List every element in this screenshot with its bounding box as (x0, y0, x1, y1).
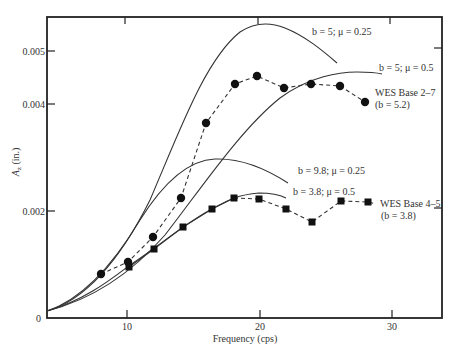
wes-base-45-markers (126, 195, 372, 271)
x-tick-label-10: 10 (122, 321, 132, 332)
annotation-b38-mu05: b = 3.8; μ = 0.5 (293, 186, 355, 197)
annotation-wes-base-27: WES Base 2–7 (375, 87, 436, 98)
annotation-b98-mu025: b = 9.8; μ = 0.25 (298, 165, 365, 176)
x-axis-ticks-bottom (127, 310, 392, 318)
y-tick-label-0005: 0.005 (23, 46, 46, 57)
annotation-b5-mu05: b = 5; μ = 0.5 (379, 62, 433, 73)
y-axis-title-unit: (in.) (10, 148, 22, 167)
annotation-wes-base-45-b: (b = 3.8) (381, 210, 416, 222)
annotation-wes-base-45: WES Base 4–5 (380, 198, 441, 209)
chart: 0 0.002 0.004 0.005 10 20 30 Frequency (… (0, 0, 455, 348)
annotation-b5-mu025: b = 5; μ = 0.25 (312, 26, 371, 37)
y-axis-ticks-left (47, 51, 55, 211)
y-axis-ticks-right (434, 48, 442, 208)
x-tick-label-30: 30 (387, 321, 397, 332)
x-axis-ticks-top (125, 17, 390, 24)
y-tick-label-0004: 0.004 (23, 99, 46, 110)
y-tick-label-0: 0 (36, 313, 41, 324)
y-tick-label-0002: 0.002 (23, 206, 46, 217)
x-tick-label-20: 20 (255, 321, 265, 332)
x-axis-title: Frequency (cps) (213, 333, 278, 345)
curve-b5-mu025 (47, 24, 337, 311)
annotation-wes-base-27-b: (b = 5.2) (375, 99, 410, 111)
y-axis-title: Az (in.) (10, 148, 23, 178)
wes-base-45-line-dashed (234, 198, 376, 222)
curve-b98-mu025 (47, 159, 288, 311)
curve-b38-mu05 (47, 193, 286, 311)
